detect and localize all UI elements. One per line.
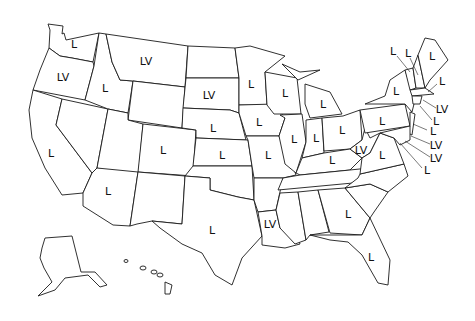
- state-label-wisconsin: L: [282, 88, 288, 99]
- state-label-iowa: L: [256, 117, 262, 128]
- state-hawaii-island: [124, 260, 128, 263]
- state-label-california: L: [48, 148, 54, 159]
- state-massachusetts: [410, 88, 434, 96]
- state-label-idaho: L: [102, 83, 108, 94]
- state-connecticut: [412, 96, 422, 104]
- state-label-south-dakota: LV: [203, 90, 215, 101]
- state-label-texas: L: [209, 225, 215, 236]
- state-label-minnesota: L: [248, 79, 254, 90]
- state-label-new-jersey: L: [430, 126, 436, 137]
- state-label-arizona: L: [105, 186, 111, 197]
- state-hawaii-island: [151, 270, 157, 274]
- state-label-maine: L: [429, 51, 435, 62]
- state-new-mexico: [130, 172, 185, 226]
- state-alaska: [38, 236, 107, 296]
- state-label-delaware: LV: [430, 140, 442, 151]
- state-wyoming: [128, 81, 185, 128]
- state-label-maryland: LV: [430, 153, 442, 164]
- state-label-washington: L: [71, 39, 77, 50]
- state-hawaii-island: [140, 266, 146, 270]
- state-label-kentucky: L: [329, 155, 335, 166]
- state-label-colorado: L: [160, 145, 166, 156]
- state-colorado: [138, 124, 196, 176]
- state-label-louisiana: LV: [264, 219, 276, 230]
- state-label-nebraska: L: [210, 123, 216, 134]
- state-label-new-hampshire: L: [405, 48, 411, 59]
- state-label-illinois: L: [291, 134, 297, 145]
- state-label-georgia: L: [345, 209, 351, 220]
- state-label-florida: L: [368, 252, 374, 263]
- state-label-pennsylvania: L: [379, 116, 385, 127]
- state-label-west-virginia: LV: [355, 145, 367, 156]
- state-label-kansas: L: [219, 150, 225, 161]
- state-label-missouri: L: [265, 150, 271, 161]
- state-label-indiana: L: [313, 133, 319, 144]
- state-label-michigan: L: [320, 99, 326, 110]
- state-label-montana: LV: [140, 56, 152, 67]
- state-hawaii-big: [165, 282, 172, 294]
- state-hawaii-island: [157, 273, 163, 277]
- state-label-vermont: L: [390, 46, 396, 57]
- state-label-oregon: LV: [57, 72, 69, 83]
- state-label-dc: L: [424, 165, 430, 176]
- state-label-virginia: L: [379, 150, 385, 161]
- state-label-new-york: L: [393, 86, 399, 97]
- state-label-ohio: L: [339, 125, 345, 136]
- state-label-rhode-island: LV: [436, 104, 448, 115]
- state-label-massachusetts: L: [439, 76, 445, 87]
- state-north-dakota: [186, 46, 239, 78]
